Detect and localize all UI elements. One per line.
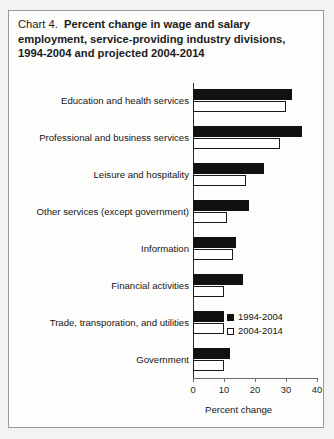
category-label: Trade, transporation, and utilities [33,317,189,329]
legend-item: 2004-2014 [227,324,283,338]
bar-series1 [193,200,249,211]
x-axis-tick [317,378,318,382]
legend-label: 1994-2004 [238,310,283,324]
bar-series1 [193,311,224,322]
bar-series1 [193,126,302,137]
category-label: Government [33,354,189,366]
x-axis-tick [286,378,287,382]
page-background: Chart 4. Percent change in wage and sala… [0,0,334,439]
category-label: Professional and business services [33,132,189,144]
legend-swatch-black [227,314,234,321]
x-axis-tick-label: 10 [219,384,229,395]
legend-item: 1994-2004 [227,310,283,324]
bar-series1 [193,237,236,248]
legend-swatch-white [227,328,234,335]
bar-series2 [193,212,227,223]
bar-series2 [193,175,246,186]
bar-series2 [193,323,224,334]
bar-series1 [193,163,264,174]
x-axis-tick-label: 20 [250,384,260,395]
bar-series2 [193,286,224,297]
x-axis-tick-label: 30 [281,384,291,395]
category-label: Financial activities [33,280,189,292]
bar-series1 [193,89,292,100]
category-label: Leisure and hospitality [33,169,189,181]
x-axis-title: Percent change [205,404,272,415]
chart-title: Chart 4. Percent change in wage and sala… [18,17,314,61]
bar-series2 [193,249,233,260]
chart-number-label: Chart 4. [18,18,58,30]
category-label: Information [33,243,189,255]
x-axis-tick [224,378,225,382]
legend-label: 2004-2014 [238,324,283,338]
figure-container: Chart 4. Percent change in wage and sala… [8,10,324,428]
x-axis-tick [193,378,194,382]
x-axis-tick [255,378,256,382]
bar-series2 [193,138,280,149]
x-axis-tick-label: 0 [190,384,195,395]
category-axis-labels: Education and health servicesProfessiona… [29,83,189,378]
category-label: Education and health services [33,95,189,107]
chart-legend: 1994-20042004-2014 [227,310,283,338]
bar-series1 [193,274,243,285]
bar-series1 [193,348,230,359]
bar-series2 [193,360,224,371]
category-label: Other services (except government) [33,206,189,218]
x-axis-tick-label: 40 [312,384,322,395]
bar-series2 [193,101,286,112]
